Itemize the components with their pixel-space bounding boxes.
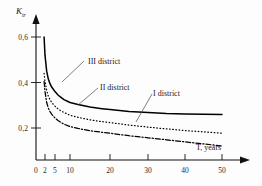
- leader-line: [136, 94, 152, 122]
- x-tick-label: 0: [34, 166, 38, 175]
- y-axis-arrow-head: [32, 14, 39, 24]
- y-axis-title-subscript: tr: [22, 12, 26, 18]
- y-tick-label: 0,6: [8, 33, 28, 42]
- leader-line: [62, 61, 84, 82]
- series-label-i: I district: [153, 89, 180, 98]
- chart-canvas: [0, 0, 262, 186]
- y-tick-label: 0,4: [8, 78, 28, 87]
- x-tick-label: 20: [106, 166, 114, 175]
- x-axis-title: T, years: [196, 143, 221, 152]
- series-label-iii: III district: [88, 57, 120, 66]
- x-tick-label: 10: [66, 166, 74, 175]
- series-label-ii: II district: [100, 83, 130, 92]
- leader-line: [78, 88, 98, 105]
- x-tick-label: 5: [53, 166, 57, 175]
- x-tick-label: 50: [218, 166, 226, 175]
- y-tick-label: 0,2: [8, 124, 28, 133]
- x-tick-label: 30: [144, 166, 152, 175]
- axis-ticks-group: [31, 37, 222, 160]
- y-axis-title: Ktr: [16, 6, 26, 18]
- x-axis-arrow-head: [240, 156, 250, 163]
- x-tick-label: 2: [43, 166, 47, 175]
- series-curve-iii: [44, 37, 222, 115]
- chart-figure: Ktr T, years 02510203040500,20,40,6 III …: [0, 0, 262, 186]
- axes-group: [32, 14, 250, 164]
- data-series-group: [44, 37, 222, 146]
- x-tick-label: 40: [181, 166, 189, 175]
